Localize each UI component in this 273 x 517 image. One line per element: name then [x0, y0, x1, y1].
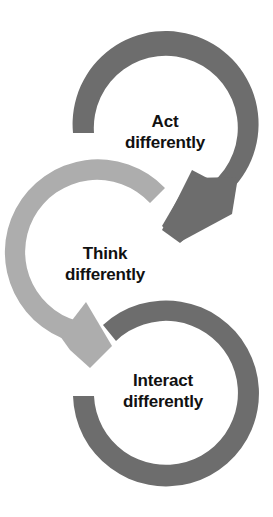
- node-act-differently: Act differently: [115, 111, 215, 153]
- top-arrowhead-tip-icon: [162, 177, 238, 242]
- middle-arrowhead-icon: [60, 302, 112, 368]
- node-interact-line1: Interact: [108, 370, 218, 391]
- node-think-line1: Think: [40, 243, 170, 264]
- node-act-line2: differently: [115, 132, 215, 153]
- node-think-line2: differently: [40, 264, 170, 285]
- node-think-differently: Think differently: [40, 243, 170, 285]
- node-act-line1: Act: [115, 111, 215, 132]
- node-interact-differently: Interact differently: [108, 370, 218, 412]
- node-interact-line2: differently: [108, 391, 218, 412]
